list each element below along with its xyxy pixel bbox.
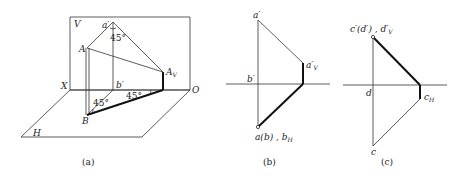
caption-c: (c) — [381, 157, 393, 167]
label-angle-b: 45° — [93, 98, 109, 108]
label-a-b-bH: a(b) , bH — [255, 132, 294, 143]
figure-a: V a′ 45° A AV X b′ O 45° 45° B H (a) — [21, 17, 200, 167]
label-angle-top: 45° — [110, 33, 126, 43]
line-A-AV — [87, 48, 163, 72]
label-H: H — [32, 128, 41, 138]
label-V: V — [74, 19, 82, 29]
label-a-prime-b: a′ — [253, 10, 260, 20]
label-b-prime: b′ — [116, 80, 124, 90]
label-a-prime: a′ — [102, 20, 109, 30]
point-c-prime — [371, 35, 374, 38]
label-c: c — [371, 147, 376, 157]
figure-b: a′ a′V b′ a(b) , bH (b) — [226, 10, 330, 167]
label-angle-right: 45° — [126, 91, 142, 101]
label-d: d — [366, 88, 372, 98]
label-c-prime-d-prime: c′(d′) , d′V — [350, 24, 393, 35]
label-B: B — [81, 116, 89, 126]
label-a-prime-V: a′V — [306, 60, 318, 71]
point-a-b — [256, 125, 259, 128]
label-cH: cH — [424, 92, 435, 103]
label-AV: AV — [165, 67, 178, 78]
line-cH-c — [373, 99, 420, 146]
projection-diagram: V a′ 45° A AV X b′ O 45° 45° B H (a) a′ … — [0, 0, 457, 179]
label-A: A — [78, 44, 86, 54]
caption-a: (a) — [82, 157, 94, 167]
trace-dV-line — [373, 37, 420, 85]
figure-c: c′(d′) , d′V d cH c (c) — [343, 24, 447, 167]
trace-bH-line — [258, 84, 303, 127]
label-O: O — [192, 85, 200, 95]
label-X: X — [60, 81, 68, 91]
label-b-prime-b: b′ — [247, 74, 255, 84]
v-plane — [70, 17, 190, 90]
caption-b: (b) — [263, 157, 276, 167]
line-a-prime-aV — [258, 20, 303, 63]
